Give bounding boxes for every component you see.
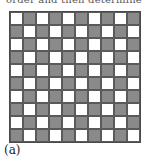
board-square xyxy=(36,64,49,77)
board-square xyxy=(23,25,36,38)
board-square xyxy=(114,51,127,64)
board-square xyxy=(114,90,127,103)
board-square xyxy=(101,64,114,77)
board-square xyxy=(62,25,75,38)
board-square xyxy=(23,12,36,25)
board-square xyxy=(127,90,140,103)
board-square xyxy=(10,12,23,25)
board-square xyxy=(114,77,127,90)
board-square xyxy=(75,103,88,116)
board-square xyxy=(23,38,36,51)
board-square xyxy=(49,38,62,51)
board-square xyxy=(10,116,23,129)
board-square xyxy=(23,51,36,64)
board-square xyxy=(49,129,62,142)
board-square xyxy=(101,12,114,25)
board-square xyxy=(101,51,114,64)
board-square xyxy=(75,64,88,77)
board-square xyxy=(10,64,23,77)
cropped-caption-text: order and then determine the xyxy=(6,0,146,5)
board-square xyxy=(10,90,23,103)
board-square xyxy=(88,12,101,25)
board-square xyxy=(88,64,101,77)
board-square xyxy=(62,64,75,77)
board-square xyxy=(10,129,23,142)
board-square xyxy=(101,38,114,51)
board-square xyxy=(75,12,88,25)
board-square xyxy=(127,116,140,129)
board-square xyxy=(75,90,88,103)
board-square xyxy=(127,12,140,25)
board-square xyxy=(101,103,114,116)
board-square xyxy=(62,77,75,90)
board-square xyxy=(114,103,127,116)
board-square xyxy=(49,12,62,25)
board-square xyxy=(62,38,75,51)
board-square xyxy=(36,38,49,51)
board-square xyxy=(62,51,75,64)
board-square xyxy=(88,90,101,103)
board-square xyxy=(88,51,101,64)
board-square xyxy=(114,25,127,38)
board-square xyxy=(127,38,140,51)
board-square xyxy=(88,77,101,90)
board-square xyxy=(114,38,127,51)
board-square xyxy=(10,77,23,90)
board-square xyxy=(101,90,114,103)
board-square xyxy=(127,25,140,38)
board-square xyxy=(36,90,49,103)
board-square xyxy=(10,103,23,116)
board-square xyxy=(88,129,101,142)
board-square xyxy=(23,116,36,129)
board-square xyxy=(75,129,88,142)
board-square xyxy=(36,12,49,25)
board-square xyxy=(62,90,75,103)
board-square xyxy=(114,12,127,25)
board-square xyxy=(23,103,36,116)
board-square xyxy=(127,103,140,116)
board-square xyxy=(62,116,75,129)
board-square xyxy=(62,103,75,116)
board-square xyxy=(36,77,49,90)
board-square xyxy=(36,25,49,38)
board-square xyxy=(127,51,140,64)
board-square xyxy=(101,77,114,90)
board-square xyxy=(23,77,36,90)
board-square xyxy=(10,25,23,38)
board-square xyxy=(75,77,88,90)
board-square xyxy=(88,25,101,38)
board-square xyxy=(101,129,114,142)
board-square xyxy=(114,116,127,129)
board-square xyxy=(10,51,23,64)
board-square xyxy=(88,116,101,129)
board-square xyxy=(49,103,62,116)
board-square xyxy=(75,116,88,129)
board-square xyxy=(114,64,127,77)
board-square xyxy=(23,64,36,77)
board-square xyxy=(88,103,101,116)
board-square xyxy=(49,116,62,129)
board-square xyxy=(62,129,75,142)
board-square xyxy=(49,64,62,77)
board-square xyxy=(23,129,36,142)
board-square xyxy=(75,38,88,51)
board-square xyxy=(75,25,88,38)
board-square xyxy=(127,129,140,142)
checkerboard-figure xyxy=(9,11,141,143)
board-square xyxy=(36,129,49,142)
board-square xyxy=(101,25,114,38)
board-square xyxy=(49,90,62,103)
board-square xyxy=(127,77,140,90)
board-square xyxy=(10,38,23,51)
board-square xyxy=(49,25,62,38)
board-square xyxy=(127,64,140,77)
board-square xyxy=(62,12,75,25)
board-square xyxy=(49,77,62,90)
board-square xyxy=(23,90,36,103)
board-square xyxy=(49,51,62,64)
board-square xyxy=(75,51,88,64)
figure-label: (a) xyxy=(4,143,21,157)
board-square xyxy=(36,103,49,116)
board-square xyxy=(114,129,127,142)
board-square xyxy=(36,51,49,64)
